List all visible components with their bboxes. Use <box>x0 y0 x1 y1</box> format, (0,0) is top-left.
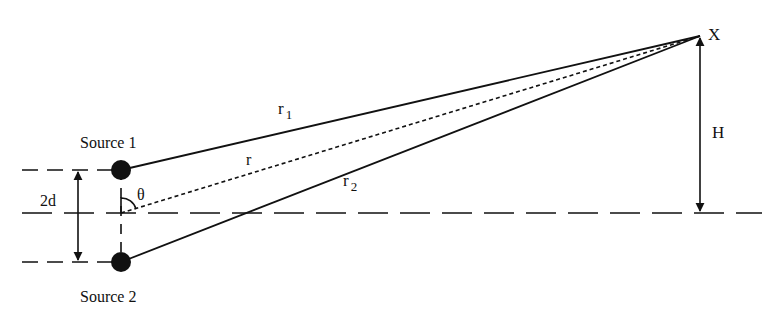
r1-label: r1 <box>278 99 292 122</box>
height-label: H <box>712 123 724 142</box>
r2-subscript: 2 <box>351 179 358 194</box>
r2-base: r <box>343 171 349 190</box>
interference-diagram: Source 1 Source 2 2d θ X H r r1 r2 <box>0 0 772 322</box>
source-2-label: Source 2 <box>80 288 136 305</box>
path-r <box>121 36 700 213</box>
r-label: r <box>246 151 252 168</box>
source-1-dot <box>111 160 131 180</box>
r1-subscript: 1 <box>286 107 293 122</box>
angle-label: θ <box>137 186 145 203</box>
r2-label: r2 <box>343 171 357 194</box>
separation-label: 2d <box>40 192 56 209</box>
source-2-dot <box>111 252 131 272</box>
source-1-label: Source 1 <box>80 134 136 151</box>
r1-base: r <box>278 99 284 118</box>
point-x-label: X <box>708 25 720 44</box>
